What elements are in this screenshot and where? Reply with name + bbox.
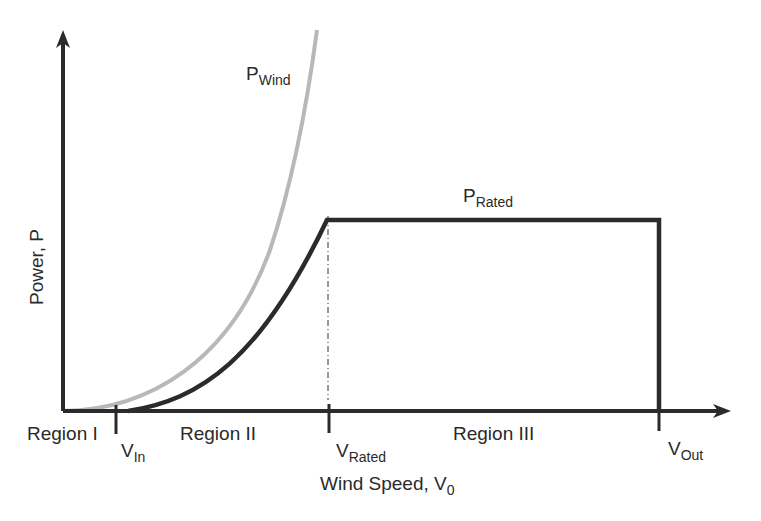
x-axis-title: Wind Speed, V0 — [320, 474, 455, 497]
region-3-label: Region III — [453, 424, 534, 443]
v-in-sub: In — [134, 449, 146, 465]
v-in-label: VIn — [121, 441, 145, 464]
y-axis-title: Power, P — [26, 229, 48, 305]
x-axis-title-main: Wind Speed, V — [320, 473, 447, 494]
x-axis-title-sub: 0 — [447, 482, 455, 498]
v-in-main: V — [121, 440, 134, 461]
v-out-label: VOut — [668, 439, 703, 462]
v-rated-sub: Rated — [349, 449, 386, 465]
p-rated-sub: Rated — [476, 194, 513, 210]
p-wind-main: P — [246, 63, 259, 84]
v-out-sub: Out — [681, 447, 704, 463]
v-out-main: V — [668, 438, 681, 459]
p-rated-label: PRated — [463, 186, 513, 209]
p-wind-sub: Wind — [259, 72, 291, 88]
v-rated-main: V — [336, 440, 349, 461]
p-rated-main: P — [463, 185, 476, 206]
turbine-power-curve — [128, 220, 659, 411]
p-wind-label: PWind — [246, 64, 291, 87]
region-1-label: Region I — [27, 424, 98, 443]
region-2-label: Region II — [180, 424, 256, 443]
v-rated-label: VRated — [336, 441, 386, 464]
